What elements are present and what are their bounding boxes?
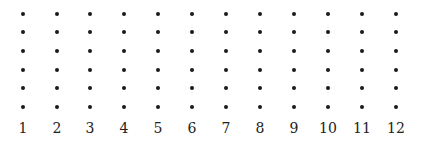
dot: [224, 105, 228, 109]
dot: [326, 105, 330, 109]
dot: [326, 49, 330, 53]
dot-grid: 123456789101112: [0, 0, 421, 143]
dot: [21, 105, 25, 109]
dot: [122, 86, 126, 90]
dot: [360, 12, 364, 16]
dot-column: 1: [8, 0, 38, 143]
dot: [122, 12, 126, 16]
dot: [190, 30, 194, 34]
dot: [258, 49, 262, 53]
column-label: 6: [177, 120, 207, 136]
column-label: 7: [211, 120, 241, 136]
dot: [190, 105, 194, 109]
dot: [394, 12, 398, 16]
dot: [88, 49, 92, 53]
dot: [360, 105, 364, 109]
column-label: 10: [313, 120, 343, 136]
dot: [55, 68, 59, 72]
dot: [156, 105, 160, 109]
dot-column: 11: [347, 0, 377, 143]
dot: [292, 86, 296, 90]
dot: [326, 86, 330, 90]
dot: [258, 105, 262, 109]
dot: [394, 86, 398, 90]
dot: [88, 105, 92, 109]
dot: [122, 105, 126, 109]
dot: [292, 105, 296, 109]
dot: [122, 68, 126, 72]
dot: [224, 49, 228, 53]
dot: [224, 86, 228, 90]
dot: [360, 30, 364, 34]
dot: [258, 86, 262, 90]
dot: [190, 86, 194, 90]
dot: [224, 68, 228, 72]
dot-column: 12: [381, 0, 411, 143]
dot: [21, 12, 25, 16]
dot: [190, 49, 194, 53]
dot: [258, 68, 262, 72]
dot-column: 8: [245, 0, 275, 143]
column-label: 2: [42, 120, 72, 136]
dot: [55, 105, 59, 109]
column-label: 4: [109, 120, 139, 136]
dot-column: 3: [75, 0, 105, 143]
dot: [190, 68, 194, 72]
column-label: 8: [245, 120, 275, 136]
dot: [360, 86, 364, 90]
column-label: 3: [75, 120, 105, 136]
dot-column: 10: [313, 0, 343, 143]
dot: [292, 68, 296, 72]
dot-column: 6: [177, 0, 207, 143]
dot: [360, 68, 364, 72]
dot: [21, 30, 25, 34]
dot: [326, 30, 330, 34]
dot: [258, 12, 262, 16]
dot: [258, 30, 262, 34]
column-label: 5: [143, 120, 173, 136]
dot: [55, 86, 59, 90]
dot: [88, 12, 92, 16]
dot: [292, 49, 296, 53]
column-label: 11: [347, 120, 377, 136]
dot: [156, 49, 160, 53]
dot: [156, 30, 160, 34]
dot: [122, 49, 126, 53]
dot: [88, 68, 92, 72]
dot: [55, 30, 59, 34]
dot-column: 7: [211, 0, 241, 143]
dot: [21, 49, 25, 53]
column-label: 12: [381, 120, 411, 136]
column-label: 1: [8, 120, 38, 136]
dot-column: 4: [109, 0, 139, 143]
dot: [394, 68, 398, 72]
dot-column: 2: [42, 0, 72, 143]
dot-column: 9: [279, 0, 309, 143]
dot: [292, 30, 296, 34]
dot: [394, 49, 398, 53]
dot: [224, 30, 228, 34]
dot: [394, 105, 398, 109]
dot: [122, 30, 126, 34]
dot: [55, 12, 59, 16]
dot: [190, 12, 194, 16]
dot: [156, 68, 160, 72]
dot: [326, 68, 330, 72]
dot: [21, 68, 25, 72]
dot: [55, 49, 59, 53]
column-label: 9: [279, 120, 309, 136]
dot: [394, 30, 398, 34]
dot: [156, 12, 160, 16]
dot: [360, 49, 364, 53]
dot: [292, 12, 296, 16]
dot: [88, 30, 92, 34]
dot: [88, 86, 92, 90]
dot: [224, 12, 228, 16]
dot: [156, 86, 160, 90]
dot: [21, 86, 25, 90]
dot-column: 5: [143, 0, 173, 143]
dot: [326, 12, 330, 16]
